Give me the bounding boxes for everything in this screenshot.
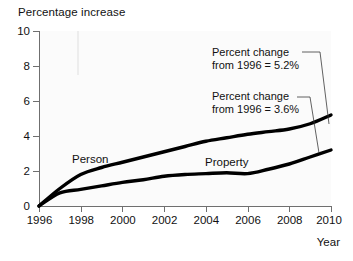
x-tick-label-2004: 2004 (194, 214, 220, 226)
x-tick-label-2008: 2008 (277, 214, 303, 226)
property-annotation-line1: Percent change (212, 90, 289, 102)
x-axis-tick-labels: 1996 1998 2000 2002 2004 2006 2008 2010 (27, 214, 342, 226)
scan-artifact-streak (77, 31, 79, 75)
y-axis-ticks (33, 32, 39, 172)
y-tick-label-2: 2 (24, 165, 30, 177)
series-label-property: Property (205, 156, 249, 168)
x-tick-label-1998: 1998 (68, 214, 94, 226)
person-annotation-line2: from 1996 = 5.2% (212, 59, 299, 71)
x-tick-label-2000: 2000 (110, 214, 136, 226)
y-tick-label-4: 4 (24, 130, 31, 142)
chart-figure: Percentage increase 10 8 6 4 2 0 (0, 0, 353, 261)
property-annotation-line2: from 1996 = 3.6% (212, 103, 299, 115)
x-tick-label-2006: 2006 (235, 214, 261, 226)
line-chart-plot: 10 8 6 4 2 0 1996 1998 2000 2002 2004 20… (0, 0, 353, 261)
y-tick-label-6: 6 (24, 95, 30, 107)
x-tick-label-1996: 1996 (27, 214, 53, 226)
series-label-person: Person (72, 153, 108, 165)
y-tick-label-8: 8 (24, 60, 30, 72)
x-axis-title: Year (317, 236, 340, 248)
y-axis-tick-labels: 10 8 6 4 2 0 (17, 25, 30, 212)
y-tick-label-0: 0 (24, 200, 30, 212)
x-tick-label-2002: 2002 (152, 214, 178, 226)
y-tick-label-10: 10 (17, 25, 30, 37)
x-tick-label-2010: 2010 (316, 214, 342, 226)
person-annotation-line1: Percent change (212, 46, 289, 58)
